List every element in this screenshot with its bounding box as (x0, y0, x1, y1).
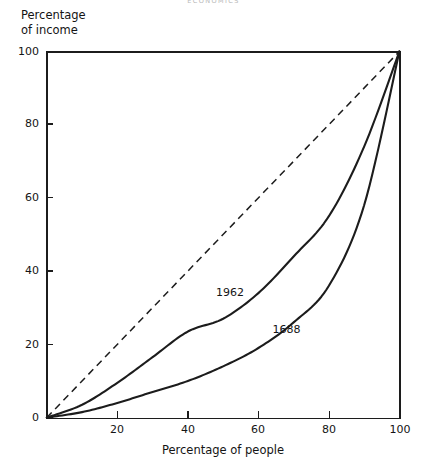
plot-lines (0, 0, 427, 470)
x-axis-title: Percentage of people (46, 443, 400, 457)
curve-label-1962: 1962 (216, 286, 244, 299)
lorenz-curve-figure: ECONOMICS Percentage of income 0 20 40 6… (0, 0, 427, 470)
equality-line (47, 51, 400, 417)
curve-label-1688: 1688 (273, 323, 301, 336)
